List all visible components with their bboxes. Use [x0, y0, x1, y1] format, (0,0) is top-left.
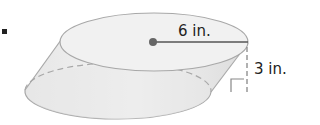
radius-label: 6 in. — [178, 22, 211, 40]
right-angle-mark — [231, 79, 244, 92]
height-label: 3 in. — [254, 60, 287, 78]
bottom-base-shading — [26, 65, 210, 119]
center-dot — [149, 38, 157, 46]
